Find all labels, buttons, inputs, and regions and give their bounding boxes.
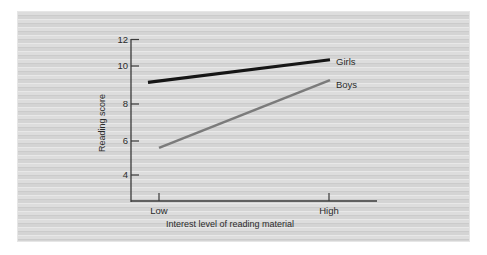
y-axis-title: Reading score <box>98 94 107 152</box>
y-tick-label-4: 4 <box>106 170 128 180</box>
series-line-girls <box>148 60 330 83</box>
x-tick-label-high: High <box>309 206 349 216</box>
y-tick-label-12: 12 <box>106 35 128 45</box>
x-axis-title: Interest level of reading material <box>166 220 294 229</box>
y-tick-label-10: 10 <box>106 61 128 71</box>
series-line-boys <box>159 80 330 148</box>
y-tick-label-6: 6 <box>106 136 128 146</box>
y-tick-label-8: 8 <box>106 99 128 109</box>
figure-panel: 12 10 8 6 4 Low High Interest level of r… <box>18 12 469 241</box>
series-label-boys: Boys <box>336 80 357 90</box>
x-tick-label-low: Low <box>139 206 179 216</box>
plot-area <box>18 12 469 241</box>
series-label-girls: Girls <box>336 57 356 67</box>
